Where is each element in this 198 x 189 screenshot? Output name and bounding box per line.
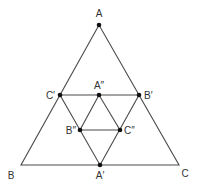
point-label: A xyxy=(96,8,103,19)
point-dot-icon xyxy=(137,93,142,98)
point-label: A′ xyxy=(96,170,105,181)
point-dot-icon xyxy=(97,23,102,28)
point-label: C″ xyxy=(124,125,135,136)
triangle-2 xyxy=(80,95,120,130)
point-dot-icon xyxy=(118,128,123,133)
point-label: C xyxy=(181,168,188,179)
point-dot-icon xyxy=(58,93,63,98)
point-label: B′ xyxy=(144,90,153,101)
point-label: C′ xyxy=(46,90,55,101)
point-dot-icon xyxy=(97,93,102,98)
point-label: B xyxy=(8,170,15,181)
point-dot-icon xyxy=(78,128,83,133)
point-label: A″ xyxy=(94,80,105,91)
point-label: B″ xyxy=(66,125,77,136)
triangle-diagram: ABCA′B′C′A″B″C″ xyxy=(0,0,198,189)
point-dot-icon xyxy=(98,163,103,168)
